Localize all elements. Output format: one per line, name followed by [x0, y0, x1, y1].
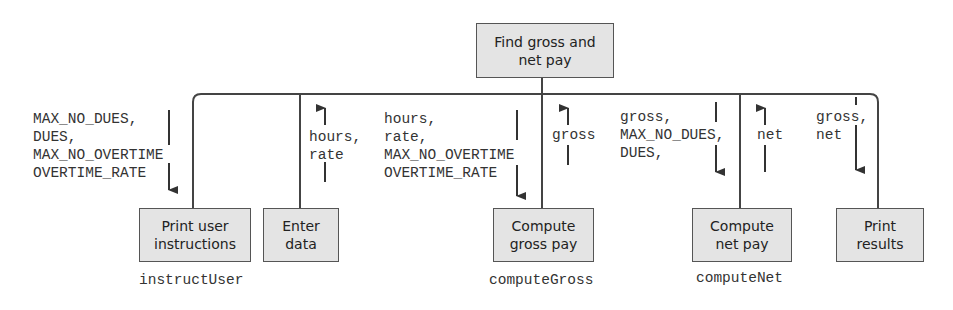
structure-chart: Find gross and net pay Print user instru…	[0, 0, 953, 310]
data-flow-label: gross, net	[816, 108, 868, 144]
module-label: Print user instructions	[154, 217, 236, 253]
module-compute-gross-pay: Compute gross pay	[493, 208, 594, 262]
module-label: Compute net pay	[710, 217, 774, 253]
function-name-computeGross: computeGross	[489, 272, 593, 288]
data-flow-label: hours, rate	[309, 128, 361, 164]
data-flow-label: gross	[552, 126, 596, 144]
module-find-gross-and-net-pay: Find gross and net pay	[476, 23, 614, 78]
module-compute-net-pay: Compute net pay	[692, 208, 792, 262]
module-label: Compute gross pay	[510, 217, 578, 253]
module-enter-data: Enter data	[263, 208, 339, 262]
module-print-user-instructions: Print user instructions	[139, 208, 251, 262]
module-label: Print results	[857, 217, 904, 253]
data-flow-label: net	[757, 126, 783, 144]
function-name-computeNet: computeNet	[696, 270, 783, 286]
data-flow-label: MAX_NO_DUES, DUES, MAX_NO_OVERTIME OVERT…	[33, 110, 164, 182]
data-flow-label: hours, rate, MAX_NO_OVERTIME OVERTIME_RA…	[384, 110, 515, 182]
module-label: Find gross and net pay	[494, 33, 595, 69]
function-name-instructUser: instructUser	[139, 272, 243, 288]
module-print-results: Print results	[836, 208, 924, 262]
data-flow-label: gross, MAX_NO_DUES, DUES,	[620, 108, 724, 162]
module-label: Enter data	[282, 217, 320, 253]
